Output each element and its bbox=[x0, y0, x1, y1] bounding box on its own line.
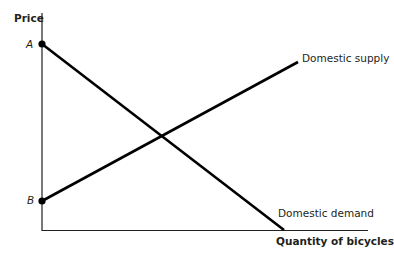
point-b-marker bbox=[38, 197, 45, 204]
supply-label: Domestic supply bbox=[302, 52, 389, 64]
demand-line bbox=[42, 44, 284, 230]
y-axis-label: Price bbox=[14, 12, 44, 24]
supply-line bbox=[42, 62, 298, 201]
point-b-label: B bbox=[27, 194, 34, 206]
demand-label: Domestic demand bbox=[278, 207, 374, 219]
point-a-marker bbox=[38, 40, 45, 47]
x-axis-label: Quantity of bicycles bbox=[276, 235, 394, 247]
point-a-label: A bbox=[26, 38, 33, 50]
